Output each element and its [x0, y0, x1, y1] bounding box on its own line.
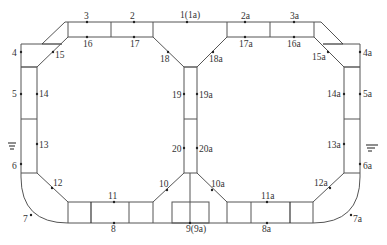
point-marker-icon — [244, 36, 246, 38]
point-label: 10 — [159, 179, 169, 189]
point-label: 13a — [327, 140, 342, 150]
point-label: 20a — [199, 144, 214, 154]
structure-outline — [21, 22, 360, 223]
point-label: 4 — [12, 48, 17, 58]
measurement-point-11a: 11a — [261, 191, 275, 203]
measurement-point-7: 7 — [23, 214, 32, 224]
point-marker-icon — [244, 21, 246, 23]
measurement-point-14: 14 — [36, 89, 49, 99]
point-marker-icon — [350, 214, 352, 216]
point-label: 17a — [239, 39, 254, 49]
point-label: 18a — [209, 54, 224, 64]
point-label: 3 — [84, 11, 89, 21]
point-marker-icon — [293, 36, 295, 38]
point-label: 12a — [314, 178, 329, 188]
measurement-point-12: 12 — [51, 178, 63, 189]
point-label: 1(1a) — [180, 10, 200, 21]
point-marker-icon — [183, 93, 185, 95]
point-label: 2 — [130, 11, 135, 21]
point-marker-icon — [20, 51, 22, 53]
point-label: 10a — [211, 179, 226, 189]
point-marker-icon — [196, 147, 198, 149]
point-marker-icon — [343, 143, 345, 145]
point-label: 8a — [262, 224, 272, 234]
measurement-point-5a: 5a — [359, 89, 373, 99]
point-label: 9(9a) — [186, 224, 206, 235]
cross-section-diagram: 1(1a)23456789(9a)10111213141516171819202… — [0, 0, 387, 245]
point-label: 15a — [312, 52, 327, 62]
point-marker-icon — [211, 189, 213, 191]
measurement-point-4a: 4a — [359, 48, 373, 58]
point-marker-icon — [293, 21, 295, 23]
point-marker-icon — [113, 201, 115, 203]
measurement-point-8: 8 — [111, 222, 116, 234]
measurement-point-2a: 2a — [241, 11, 251, 23]
measurement-point-15a: 15a — [312, 51, 329, 62]
point-label: 2a — [241, 11, 251, 21]
measurement-point-2: 2 — [130, 11, 135, 23]
measurement-point-20a: 20a — [196, 144, 214, 154]
measurement-point-9: 9(9a) — [186, 222, 206, 235]
measurement-point-10: 10 — [159, 179, 169, 191]
point-marker-icon — [30, 214, 32, 216]
point-marker-icon — [359, 51, 361, 53]
point-label: 14 — [39, 89, 49, 99]
point-marker-icon — [86, 36, 88, 38]
point-marker-icon — [52, 51, 54, 53]
point-marker-icon — [359, 93, 361, 95]
point-marker-icon — [20, 93, 22, 95]
point-marker-icon — [36, 143, 38, 145]
point-label: 19 — [172, 90, 182, 100]
measurement-point-11: 11 — [108, 191, 117, 203]
point-label: 4a — [363, 48, 373, 58]
point-label: 7a — [353, 214, 363, 224]
point-label: 13 — [39, 140, 49, 150]
point-marker-icon — [133, 36, 135, 38]
point-marker-icon — [196, 93, 198, 95]
measurement-point-19a: 19a — [196, 90, 214, 100]
water-level-left-icon — [8, 143, 16, 149]
point-label: 16 — [83, 39, 93, 49]
point-label: 14a — [327, 89, 342, 99]
point-marker-icon — [329, 187, 331, 189]
point-label: 12 — [53, 178, 63, 188]
measurement-point-13a: 13a — [327, 140, 345, 150]
measurement-point-10a: 10a — [211, 179, 226, 191]
point-marker-icon — [86, 21, 88, 23]
point-marker-icon — [20, 163, 22, 165]
measurement-point-20: 20 — [172, 144, 185, 154]
measurement-point-15: 15 — [52, 50, 65, 60]
measurement-point-17: 17 — [130, 36, 140, 49]
point-label: 16a — [287, 39, 302, 49]
point-label: 6 — [12, 161, 17, 171]
point-label: 18 — [160, 54, 170, 64]
point-label: 3a — [290, 11, 300, 21]
measurement-point-8a: 8a — [262, 222, 272, 234]
point-label: 5a — [363, 89, 373, 99]
point-label: 17 — [130, 39, 140, 49]
measurement-point-1: 1(1a) — [180, 10, 200, 23]
point-marker-icon — [266, 201, 268, 203]
measurement-point-6a: 6a — [359, 161, 373, 171]
measurement-point-3a: 3a — [290, 11, 300, 23]
measurement-point-16a: 16a — [287, 36, 302, 49]
point-marker-icon — [167, 51, 169, 53]
measurement-point-13: 13 — [36, 140, 49, 150]
point-label: 11a — [261, 191, 275, 201]
point-label: 11 — [108, 191, 117, 201]
point-label: 6a — [363, 161, 373, 171]
point-marker-icon — [343, 93, 345, 95]
measurement-point-14a: 14a — [327, 89, 345, 99]
water-level-right-icon — [366, 145, 378, 151]
point-label: 15 — [55, 50, 65, 60]
point-label: 7 — [23, 214, 28, 224]
measurement-points: 1(1a)23456789(9a)10111213141516171819202… — [12, 10, 373, 235]
point-label: 5 — [12, 89, 17, 99]
measurement-point-16: 16 — [83, 36, 93, 49]
point-marker-icon — [36, 93, 38, 95]
point-marker-icon — [183, 147, 185, 149]
point-marker-icon — [327, 51, 329, 53]
measurement-point-7a: 7a — [350, 214, 363, 224]
point-marker-icon — [186, 21, 188, 23]
point-label: 8 — [111, 224, 116, 234]
